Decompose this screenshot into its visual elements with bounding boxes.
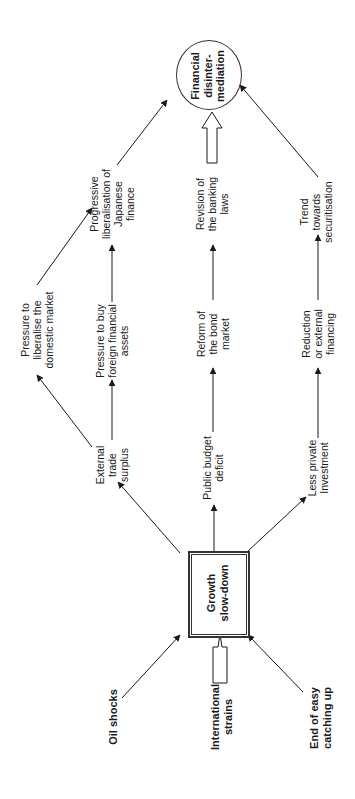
branch-external-trade-surplus: External trade surplus bbox=[94, 446, 130, 485]
step-reduction-external-financing: Reduction or external financing bbox=[300, 309, 336, 359]
hollow-arrow-banking-to-outcome bbox=[202, 112, 222, 163]
cause-international-strains: International strains bbox=[209, 684, 234, 750]
arrow-securit-to-outcome bbox=[240, 85, 318, 177]
step-pressure-buy-foreign-assets: Pressure to buy foreign financial assets bbox=[94, 304, 130, 378]
branch-public-budget-deficit: Public budget deficit bbox=[201, 436, 225, 500]
arrow-domestic-to-liberal bbox=[37, 208, 92, 285]
branch-less-private-investment: Less private Investment bbox=[306, 440, 330, 497]
arrow-end-to-growth bbox=[248, 635, 303, 692]
step-trend-securitisation: Trend towards securitisation bbox=[298, 181, 334, 242]
step-pressure-liberalise-domestic: Pressure to liberalise the domestic mark… bbox=[19, 291, 55, 368]
arrow-liberal-to-outcome bbox=[117, 100, 167, 165]
arrow-growth-to-invest bbox=[248, 497, 306, 551]
arrow-oil-to-growth bbox=[122, 635, 180, 698]
cause-end-of-easy-catching-up: End of easy catching up bbox=[308, 687, 333, 749]
hollow-arrow-intl-to-growth bbox=[213, 634, 227, 683]
financial-disintermediation-label: Financial disinter- mediation bbox=[189, 50, 227, 102]
growth-slowdown-label: Growth slow-down bbox=[205, 565, 230, 622]
step-reform-bond-market: Reform of the bond market bbox=[195, 311, 231, 357]
step-progressive-liberalisation: Progressive liberalisation of Japanese f… bbox=[88, 169, 136, 239]
arrow-growth-to-trade bbox=[118, 482, 180, 553]
step-revision-banking-laws: Revision of the banking laws bbox=[194, 177, 230, 231]
cause-oil-shocks: Oil shocks bbox=[107, 689, 120, 745]
diagram-canvas: Growth slow-down Financial disinter- med… bbox=[0, 0, 355, 799]
arrow-trade-to-domestic bbox=[37, 375, 92, 447]
connector-arrows bbox=[0, 0, 355, 799]
